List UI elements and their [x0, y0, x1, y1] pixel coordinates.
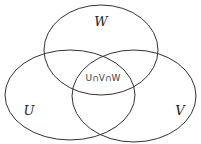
- set-v-ellipse: [72, 50, 196, 142]
- intersection-label: U∩V∩W: [86, 73, 121, 83]
- venn-diagram: W U V U∩V∩W: [0, 0, 201, 144]
- set-u-label: U: [24, 103, 36, 118]
- set-v-label: V: [175, 103, 186, 118]
- set-u-ellipse: [5, 50, 135, 140]
- set-w-label: W: [94, 14, 109, 29]
